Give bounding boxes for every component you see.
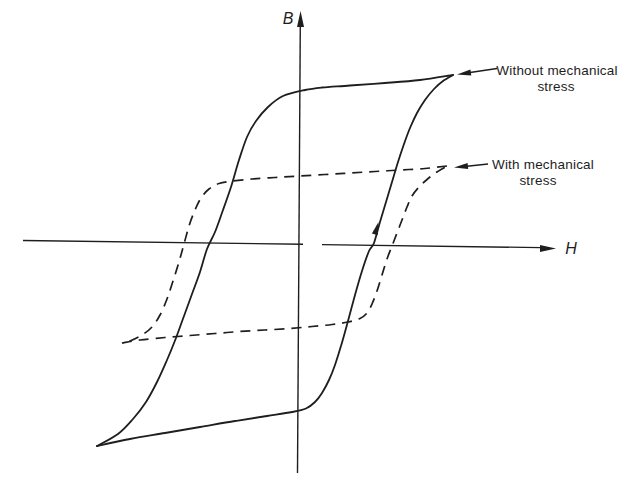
annotation-with-stress-arrow-tail xyxy=(467,164,488,166)
b-axis-arrowhead-icon xyxy=(297,11,304,27)
hysteresis-figure: H B Without mechanical stress xyxy=(0,0,632,484)
annotation-without-stress-arrow-tail xyxy=(470,69,497,73)
dashed-hysteresis-loop xyxy=(122,166,447,343)
dashed-loop-lower-right-branch xyxy=(122,166,447,343)
h-axis-arrowhead-icon xyxy=(540,245,556,252)
h-axis-segment-1 xyxy=(23,241,303,245)
annotation-without-stress-line2: stress xyxy=(537,79,574,94)
solid-loop-lower-right-branch xyxy=(97,75,453,446)
figure-canvas: H B Without mechanical stress xyxy=(0,0,632,484)
annotation-without-stress: Without mechanical stress xyxy=(457,63,618,94)
solid-loop-upper-left-branch xyxy=(97,75,453,446)
b-axis: B xyxy=(283,10,304,473)
annotation-with-stress-arrowhead-icon xyxy=(454,163,468,169)
h-axis-label: H xyxy=(565,240,577,257)
annotation-with-stress-line2: stress xyxy=(519,173,556,188)
solid-hysteresis-loop xyxy=(97,75,453,446)
dashed-loop-upper-left-branch xyxy=(122,166,447,343)
annotation-without-stress-line1: Without mechanical xyxy=(496,63,617,78)
annotation-with-stress-line1: With mechanical xyxy=(492,157,594,172)
h-axis-segment-2 xyxy=(322,245,541,248)
b-axis-label: B xyxy=(283,10,294,27)
annotation-without-stress-arrowhead-icon xyxy=(457,69,471,75)
annotation-with-stress: With mechanical stress xyxy=(454,157,594,188)
loop-direction-arrowhead-icon xyxy=(372,222,379,235)
h-axis: H xyxy=(23,240,577,257)
